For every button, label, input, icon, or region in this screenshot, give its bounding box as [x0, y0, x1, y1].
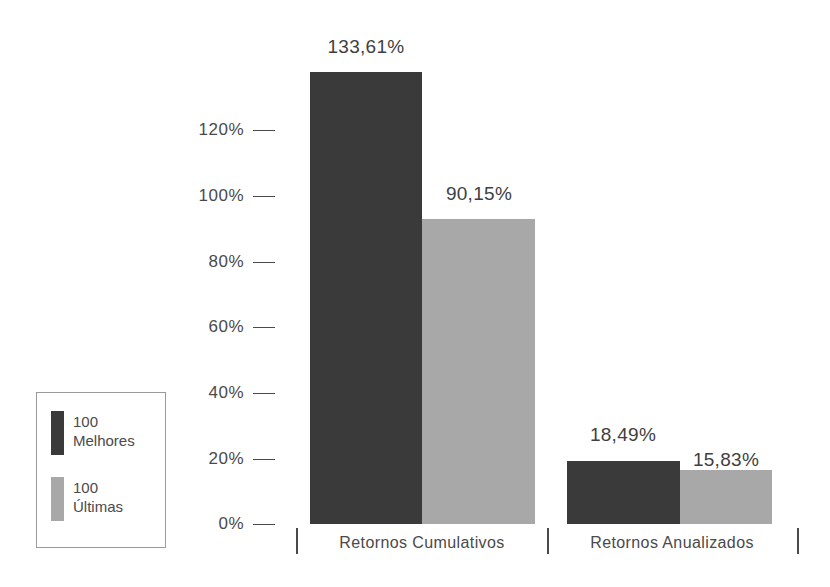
legend-item-label: 100 Últimas — [73, 477, 123, 516]
category-axis-tick — [797, 528, 799, 554]
y-axis-tick-label: 0% — [218, 514, 244, 534]
bar-value-label: 18,49% — [590, 424, 656, 446]
y-axis-tick: 40% — [208, 383, 275, 403]
legend-swatch-icon — [51, 411, 64, 455]
y-axis-tick-dash — [253, 459, 275, 460]
bar-anualizados-melhores — [567, 461, 680, 524]
y-axis-tick-label: 100% — [199, 186, 244, 206]
bar-value-label: 15,83% — [693, 449, 759, 471]
legend-swatch-icon — [51, 477, 64, 521]
bar-cumulativos-ultimas — [422, 219, 535, 524]
category-label-anualizados: Retornos Anualizados — [590, 534, 754, 552]
bar-value-label: 90,15% — [446, 183, 512, 205]
category-label-cumulativos: Retornos Cumulativos — [339, 534, 504, 552]
bar-value-label: 133,61% — [327, 36, 404, 58]
bar-chart: 120% 100% 80% 60% 40% 20% 0% — [0, 0, 830, 587]
y-axis-tick-dash — [253, 393, 275, 394]
legend-item-melhores: 100 Melhores — [51, 411, 135, 455]
legend: 100 Melhores 100 Últimas — [36, 392, 166, 548]
y-axis-tick-dash — [253, 196, 275, 197]
y-axis-tick: 80% — [208, 252, 275, 272]
y-axis-tick: 100% — [199, 186, 275, 206]
bar-anualizados-ultimas — [680, 470, 772, 524]
y-axis-tick-label: 60% — [208, 317, 244, 337]
legend-item-ultimas: 100 Últimas — [51, 477, 123, 521]
y-axis-tick-label: 120% — [199, 120, 244, 140]
y-axis-tick: 0% — [218, 514, 275, 534]
y-axis-tick-label: 40% — [208, 383, 244, 403]
y-axis-tick-dash — [253, 524, 275, 525]
y-axis-tick: 20% — [208, 449, 275, 469]
y-axis-tick-dash — [253, 262, 275, 263]
category-axis-tick — [547, 528, 549, 554]
y-axis-tick-label: 20% — [208, 449, 244, 469]
bar-cumulativos-melhores — [310, 72, 422, 524]
legend-item-label: 100 Melhores — [73, 411, 135, 450]
category-axis-tick — [296, 528, 298, 554]
y-axis-tick: 60% — [208, 317, 275, 337]
y-axis-tick: 120% — [199, 120, 275, 140]
plot-area: 133,61% 90,15% 18,49% 15,83% — [297, 20, 798, 524]
y-axis-tick-label: 80% — [208, 252, 244, 272]
y-axis-tick-dash — [253, 327, 275, 328]
y-axis-tick-dash — [253, 130, 275, 131]
